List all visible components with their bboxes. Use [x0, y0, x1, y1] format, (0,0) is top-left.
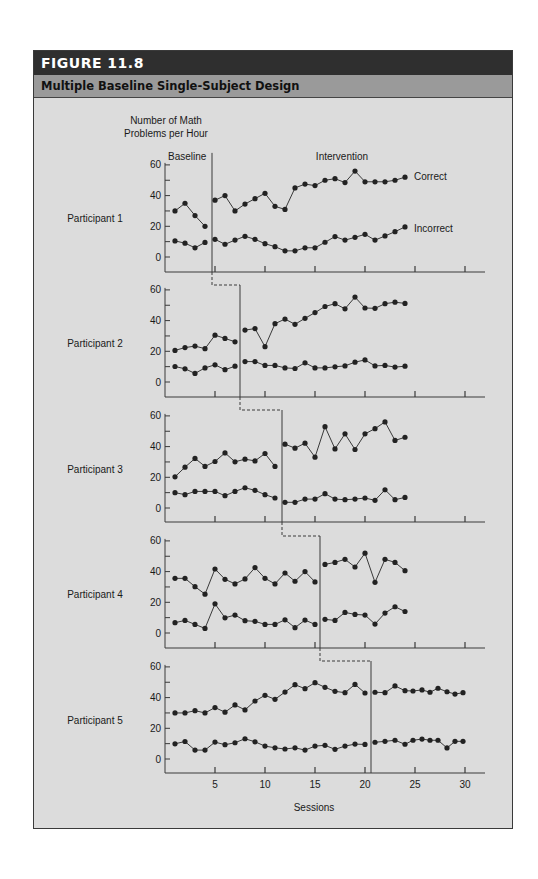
- legend-incorrect: Incorrect: [414, 223, 453, 234]
- data-point: [192, 622, 197, 627]
- y-tick-label: 40: [150, 190, 162, 201]
- data-point: [352, 235, 357, 240]
- data-point: [410, 688, 415, 693]
- data-point: [282, 365, 287, 370]
- data-point: [362, 305, 367, 310]
- y-tick-label: 20: [150, 723, 162, 734]
- data-point: [252, 359, 257, 364]
- y-axis-label: Number of Math Problems per Hour: [124, 115, 209, 139]
- data-point: [410, 738, 415, 743]
- data-point: [182, 710, 187, 715]
- data-point: [182, 366, 187, 371]
- data-point: [302, 686, 307, 691]
- data-point: [172, 710, 177, 715]
- data-point: [232, 238, 237, 243]
- incorrect-baseline-line: [175, 241, 205, 248]
- data-point: [302, 181, 307, 186]
- data-point: [332, 176, 337, 181]
- data-point: [172, 741, 177, 746]
- data-point: [222, 193, 227, 198]
- incorrect-intervention-line: [375, 739, 463, 748]
- data-point: [252, 326, 257, 331]
- data-point: [242, 457, 247, 462]
- data-point: [312, 245, 317, 250]
- data-point: [202, 224, 207, 229]
- data-point: [342, 690, 347, 695]
- data-point: [342, 363, 347, 368]
- data-point: [372, 690, 377, 695]
- participant-label: Participant 3: [67, 464, 123, 475]
- data-point: [382, 363, 387, 368]
- data-point: [402, 568, 407, 573]
- data-point: [402, 742, 407, 747]
- data-point: [252, 237, 257, 242]
- data-point: [192, 371, 197, 376]
- data-point: [435, 738, 440, 743]
- data-point: [352, 612, 357, 617]
- data-point: [262, 191, 267, 196]
- data-point: [222, 367, 227, 372]
- data-point: [372, 306, 377, 311]
- data-point: [272, 321, 277, 326]
- data-point: [312, 680, 317, 685]
- data-point: [392, 438, 397, 443]
- data-point: [372, 179, 377, 184]
- data-point: [402, 688, 407, 693]
- data-point: [352, 742, 357, 747]
- data-point: [212, 566, 217, 571]
- data-point: [402, 495, 407, 500]
- data-point: [372, 363, 377, 368]
- data-point: [452, 739, 457, 744]
- data-point: [232, 489, 237, 494]
- participant-label: Participant 4: [67, 589, 123, 600]
- phase-connector-dashed: [320, 648, 371, 661]
- data-point: [312, 496, 317, 501]
- data-point: [372, 498, 377, 503]
- data-point: [172, 364, 177, 369]
- data-point: [222, 742, 227, 747]
- data-point: [302, 360, 307, 365]
- data-point: [392, 229, 397, 234]
- data-point: [332, 496, 337, 501]
- data-point: [262, 241, 267, 246]
- y-tick-label: 60: [150, 159, 162, 170]
- data-point: [460, 739, 465, 744]
- data-point: [222, 710, 227, 715]
- data-point: [212, 198, 217, 203]
- data-point: [322, 617, 327, 622]
- data-point: [282, 570, 287, 575]
- data-point: [312, 183, 317, 188]
- data-point: [362, 232, 367, 237]
- data-point: [172, 348, 177, 353]
- data-point: [182, 345, 187, 350]
- data-point: [252, 619, 257, 624]
- data-point: [272, 244, 277, 249]
- data-point: [212, 601, 217, 606]
- data-point: [172, 576, 177, 581]
- data-point: [262, 744, 267, 749]
- y-axis-label-line-2: Problems per Hour: [124, 128, 209, 139]
- data-point: [242, 201, 247, 206]
- data-point: [312, 622, 317, 627]
- data-point: [362, 690, 367, 695]
- data-point: [282, 207, 287, 212]
- y-tick-label: 60: [150, 284, 162, 295]
- data-point: [262, 576, 267, 581]
- y-tick-label: 20: [150, 221, 162, 232]
- data-point: [322, 304, 327, 309]
- correct-baseline-line: [175, 453, 275, 477]
- data-point: [444, 689, 449, 694]
- y-tick-label: 60: [150, 410, 162, 421]
- data-point: [292, 185, 297, 190]
- data-point: [262, 622, 267, 627]
- x-tick-label: 10: [259, 779, 271, 790]
- data-point: [292, 682, 297, 687]
- data-point: [419, 687, 424, 692]
- data-point: [302, 496, 307, 501]
- correct-intervention-line: [375, 686, 463, 694]
- phase-connector-dashed: [240, 397, 282, 410]
- data-point: [182, 492, 187, 497]
- data-point: [302, 618, 307, 623]
- data-point: [342, 431, 347, 436]
- data-point: [322, 685, 327, 690]
